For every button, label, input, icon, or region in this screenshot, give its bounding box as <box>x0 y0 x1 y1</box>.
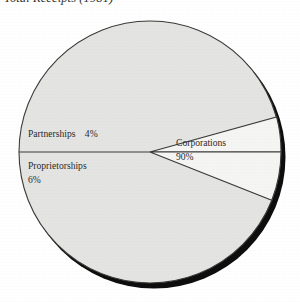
slice-label-partnerships-percent: 4% <box>85 128 98 139</box>
slice-label-proprietorships: Proprietorships 6% <box>28 159 87 186</box>
pie-chart-figure: Total Receipts (1981) Corporations 90% P… <box>0 0 300 302</box>
slice-label-partnerships: Partnerships 4% <box>28 127 98 141</box>
slice-label-partnerships-name: Partnerships <box>28 128 75 139</box>
slice-label-corporations: Corporations 90% <box>176 136 226 163</box>
pie-chart-graphic <box>0 0 300 302</box>
slice-label-corporations-percent: 90% <box>176 150 226 164</box>
slice-label-proprietorships-name: Proprietorships <box>28 160 87 171</box>
slice-label-corporations-name: Corporations <box>176 137 226 148</box>
slice-label-proprietorships-percent: 6% <box>28 173 87 187</box>
